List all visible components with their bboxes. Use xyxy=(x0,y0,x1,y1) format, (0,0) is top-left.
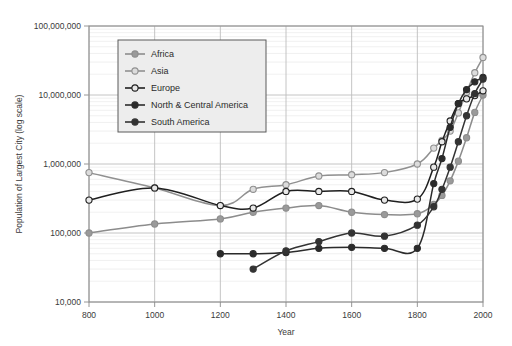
data-point xyxy=(316,202,322,208)
data-point xyxy=(316,245,322,251)
y-tick-label: 10,000,000 xyxy=(38,90,81,100)
x-tick-label: 800 xyxy=(82,310,96,320)
data-point xyxy=(349,209,355,215)
data-point xyxy=(414,245,420,251)
y-tick-label: 100,000 xyxy=(50,228,81,238)
x-axis-title: Year xyxy=(277,327,294,337)
legend-marker xyxy=(132,102,138,108)
data-point xyxy=(349,230,355,236)
data-point xyxy=(447,178,453,184)
data-point xyxy=(431,181,437,187)
data-point xyxy=(349,244,355,250)
data-point xyxy=(217,216,223,222)
data-point xyxy=(217,202,223,208)
data-point xyxy=(250,266,256,272)
data-point xyxy=(250,251,256,257)
x-tick-label: 2000 xyxy=(474,310,493,320)
data-point xyxy=(283,188,289,194)
data-point xyxy=(455,139,461,145)
data-point xyxy=(316,173,322,179)
data-point xyxy=(381,245,387,251)
population-line-chart: 10,000100,0001,000,00010,000,000100,000,… xyxy=(0,0,512,346)
data-point xyxy=(480,76,486,82)
data-point xyxy=(431,204,437,210)
legend: AfricaAsiaEuropeNorth & Central AmericaS… xyxy=(118,40,266,132)
data-point xyxy=(480,54,486,60)
data-point xyxy=(439,155,445,161)
data-point xyxy=(472,79,478,85)
data-point xyxy=(349,172,355,178)
data-point xyxy=(414,196,420,202)
x-tick-label: 1200 xyxy=(211,310,230,320)
data-point xyxy=(283,205,289,211)
data-point xyxy=(414,161,420,167)
data-point xyxy=(381,233,387,239)
x-tick-label: 1000 xyxy=(145,310,164,320)
data-point xyxy=(447,124,453,130)
data-point xyxy=(455,158,461,164)
data-point xyxy=(414,222,420,228)
data-point xyxy=(439,186,445,192)
data-point xyxy=(431,145,437,151)
chart-container: 10,000100,0001,000,00010,000,000100,000,… xyxy=(0,0,512,346)
legend-marker xyxy=(132,51,138,57)
data-point xyxy=(472,70,478,76)
data-point xyxy=(283,182,289,188)
y-tick-label: 100,000,000 xyxy=(34,21,82,31)
x-tick-label: 1600 xyxy=(342,310,361,320)
legend-label: South America xyxy=(151,117,210,127)
data-point xyxy=(455,101,461,107)
data-point xyxy=(480,88,486,94)
y-tick-label: 1,000,000 xyxy=(43,159,81,169)
data-point xyxy=(447,164,453,170)
x-tick-label: 1800 xyxy=(408,310,427,320)
legend-label: Asia xyxy=(151,66,169,76)
data-point xyxy=(250,186,256,192)
legend-marker xyxy=(132,119,138,125)
data-point xyxy=(349,188,355,194)
y-tick-label: 10,000 xyxy=(55,297,81,307)
data-point xyxy=(316,188,322,194)
data-point xyxy=(414,211,420,217)
data-point xyxy=(283,248,289,254)
data-point xyxy=(152,185,158,191)
legend-marker xyxy=(132,68,138,74)
data-point xyxy=(152,221,158,227)
legend-label: Europe xyxy=(151,83,180,93)
data-point xyxy=(463,135,469,141)
data-point xyxy=(463,96,469,102)
legend-label: Africa xyxy=(151,49,174,59)
data-point xyxy=(472,90,478,96)
legend-label: North & Central America xyxy=(151,100,248,110)
data-point xyxy=(463,113,469,119)
data-point xyxy=(217,251,223,257)
data-point xyxy=(463,86,469,92)
data-point xyxy=(316,239,322,245)
legend-marker xyxy=(132,85,138,91)
data-point xyxy=(381,170,387,176)
data-point xyxy=(439,139,445,145)
data-point xyxy=(86,197,92,203)
data-point xyxy=(86,230,92,236)
data-point xyxy=(250,205,256,211)
data-point xyxy=(381,197,387,203)
data-point xyxy=(431,164,437,170)
x-tick-label: 1400 xyxy=(277,310,296,320)
y-axis-title: Population of Largest City (log scale) xyxy=(14,94,24,233)
data-point xyxy=(381,211,387,217)
data-point xyxy=(472,109,478,115)
data-point xyxy=(86,170,92,176)
